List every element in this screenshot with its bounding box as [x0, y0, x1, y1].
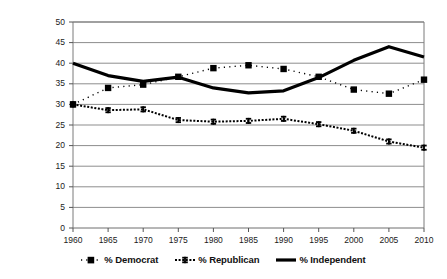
- data-point-marker: [386, 138, 391, 144]
- legend-label: % Independent: [299, 254, 365, 265]
- legend-item-democrat[interactable]: % Democrat: [81, 254, 158, 265]
- x-tick-label: 2005: [369, 236, 409, 245]
- chart-legend: % Democrat% Republican% Independent: [0, 254, 447, 265]
- y-tick-label: 50: [43, 18, 65, 27]
- party-affiliation-chart: 05101520253035404550 1960196519701975198…: [0, 0, 447, 279]
- y-tick-label: 45: [43, 38, 65, 47]
- x-tick-label: 1990: [264, 236, 304, 245]
- y-tick-label: 40: [43, 59, 65, 68]
- series-layer: [70, 47, 427, 151]
- legend-item-republican[interactable]: % Republican: [175, 254, 259, 265]
- data-point-marker: [351, 86, 357, 92]
- series-line-independent: [73, 47, 424, 93]
- series-line-democrat: [73, 65, 424, 104]
- square-marker-swatch: [81, 255, 101, 265]
- data-point-marker: [210, 65, 216, 71]
- x-tick-label: 1995: [299, 236, 339, 245]
- x-tick-label: 2010: [404, 236, 444, 245]
- thick-line-swatch: [276, 255, 296, 265]
- data-point-marker: [245, 62, 251, 68]
- legend-label: % Republican: [198, 254, 259, 265]
- series-line-republican: [73, 104, 424, 147]
- x-tick-label: 1985: [229, 236, 269, 245]
- y-tick-label: 10: [43, 182, 65, 191]
- y-tick-label: 15: [43, 162, 65, 171]
- data-point-marker: [421, 76, 427, 82]
- y-tick-label: 5: [43, 203, 65, 212]
- legend-label: % Democrat: [104, 254, 158, 265]
- x-tick-label: 1965: [88, 236, 128, 245]
- y-tick-label: 35: [43, 79, 65, 88]
- ibeam-marker-swatch: [175, 255, 195, 265]
- x-tick-label: 2000: [334, 236, 374, 245]
- y-tick-label: 20: [43, 141, 65, 150]
- data-point-marker: [105, 85, 111, 91]
- y-tick-label: 30: [43, 100, 65, 109]
- x-tick-label: 1970: [123, 236, 163, 245]
- data-point-marker: [280, 66, 286, 72]
- x-tick-label: 1960: [53, 236, 93, 245]
- y-tick-label: 0: [43, 224, 65, 233]
- data-point-marker: [386, 90, 392, 96]
- legend-item-independent[interactable]: % Independent: [276, 254, 365, 265]
- data-point-marker: [246, 118, 251, 124]
- x-tick-label: 1975: [158, 236, 198, 245]
- y-tick-label: 25: [43, 121, 65, 130]
- x-tick-label: 1980: [193, 236, 233, 245]
- data-point-marker: [281, 116, 286, 122]
